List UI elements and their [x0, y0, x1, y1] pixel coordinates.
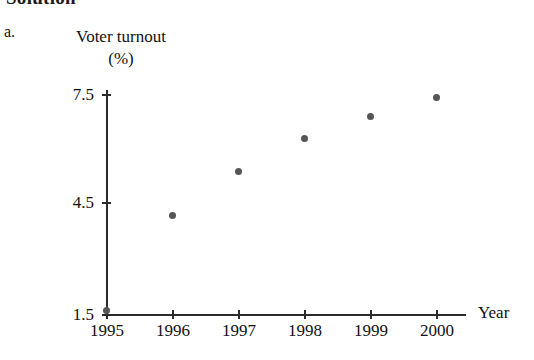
data-point — [169, 212, 176, 219]
y-tick-label: 1.5 — [50, 306, 94, 323]
x-tick-mark — [370, 310, 372, 319]
x-tick-label: 1996 — [143, 322, 203, 339]
y-tick-label: 4.5 — [50, 194, 94, 211]
x-tick-mark — [436, 310, 438, 319]
x-tick-label: 2000 — [407, 322, 467, 339]
x-tick-label: 1999 — [341, 322, 401, 339]
y-tick-mark — [102, 202, 111, 204]
data-point — [433, 94, 440, 101]
x-tick-mark — [304, 310, 306, 319]
scatter-plot: 7.5 4.5 1.5 1995 1996 1997 1998 1999 200… — [0, 0, 534, 360]
x-tick-label: 1998 — [275, 322, 335, 339]
x-axis-line — [106, 314, 466, 316]
x-tick-label: 1997 — [209, 322, 269, 339]
data-point — [301, 135, 308, 142]
data-point — [367, 113, 374, 120]
data-point — [103, 307, 110, 314]
data-point — [235, 168, 242, 175]
figure-page: Solution a. Voter turnout (%) Year 7.5 4… — [0, 0, 534, 360]
x-tick-mark — [172, 310, 174, 319]
x-tick-mark — [238, 310, 240, 319]
y-tick-label: 7.5 — [50, 86, 94, 103]
x-tick-label: 1995 — [77, 322, 137, 339]
y-tick-mark — [102, 94, 111, 96]
